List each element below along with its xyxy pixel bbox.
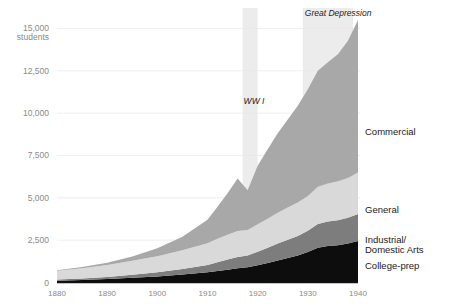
annotation-label-ww1: WW I	[244, 96, 265, 106]
x-tick-1940: 1940	[349, 289, 367, 298]
series-label-industrial-domestic-arts-line2: Domestic Arts	[365, 244, 424, 255]
series-label-commercial: Commercial	[365, 126, 416, 137]
x-tick-1880: 1880	[48, 289, 66, 298]
y-axis-ticks: 02,5005,0007,50010,00012,50015,000studen…	[17, 23, 49, 287]
x-axis-ticks: 1880189019001910192019301940	[48, 289, 367, 298]
enrollment-area-chart: 02,5005,0007,50010,00012,50015,000studen…	[0, 0, 451, 308]
y-tick-5,000: 5,000	[28, 193, 50, 203]
y-tick-7,500: 7,500	[28, 150, 50, 160]
annotation-label-great-depression: Great Depression	[305, 8, 372, 18]
x-tick-1890: 1890	[98, 289, 116, 298]
series-labels: College-prepIndustrial/Domestic ArtsGene…	[365, 126, 424, 271]
series-label-general: General	[365, 204, 399, 215]
y-tick-10,000: 10,000	[23, 108, 49, 118]
x-tick-1910: 1910	[199, 289, 217, 298]
y-tick-12,500: 12,500	[23, 66, 49, 76]
y-tick-0: 0	[44, 278, 49, 288]
y-axis-unit-label: students	[17, 32, 49, 42]
x-tick-1920: 1920	[249, 289, 267, 298]
x-tick-1900: 1900	[148, 289, 166, 298]
y-tick-2,500: 2,500	[28, 235, 50, 245]
series-label-college-prep: College-prep	[365, 260, 419, 271]
chart-canvas: 02,5005,0007,50010,00012,50015,000studen…	[0, 0, 451, 308]
x-tick-1930: 1930	[299, 289, 317, 298]
